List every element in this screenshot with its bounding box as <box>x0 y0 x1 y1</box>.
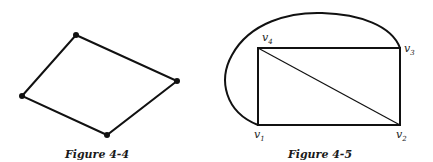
figure-4-4-caption: Figure 4-4 <box>64 148 129 161</box>
vertex-bottom <box>104 132 110 138</box>
vertex-label-v1: v1 <box>254 128 265 143</box>
vertex-label-v2: v2 <box>396 128 407 143</box>
quadrilateral-edges <box>22 35 177 135</box>
vertex-left <box>19 93 25 99</box>
vertex-top <box>73 32 79 38</box>
vertex-right <box>174 78 180 84</box>
vertex-label-v3: v3 <box>404 42 415 57</box>
figures-canvas: Figure 4-4 v4 v3 v1 v2 Figure 4-5 <box>0 0 433 162</box>
vertex-label-v4: v4 <box>262 31 273 46</box>
figure-4-4: Figure 4-4 <box>19 32 180 161</box>
figure-4-5-caption: Figure 4-5 <box>287 148 352 161</box>
diagonal-edge-v4-v2 <box>258 48 400 125</box>
figure-4-5: v4 v3 v1 v2 Figure 4-5 <box>225 13 415 161</box>
curved-edge-v1-v3 <box>225 13 400 125</box>
